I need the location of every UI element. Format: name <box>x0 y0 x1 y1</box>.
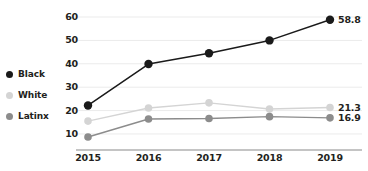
data-point-white-2019[interactable] <box>326 104 334 112</box>
end-value-label-white: 21.3 <box>338 103 361 113</box>
data-point-latinx-2017[interactable] <box>205 115 213 123</box>
x-tick-label: 2016 <box>136 152 162 163</box>
x-tick-label: 2015 <box>75 152 101 163</box>
series-line-black <box>88 20 330 106</box>
end-value-label-latinx: 16.9 <box>338 113 361 123</box>
data-point-black-2018[interactable] <box>265 36 273 44</box>
data-point-white-2015[interactable] <box>84 117 92 125</box>
data-point-black-2016[interactable] <box>144 60 152 68</box>
data-point-latinx-2019[interactable] <box>326 114 334 122</box>
x-tick-label: 2019 <box>317 152 343 163</box>
data-point-black-2017[interactable] <box>205 49 213 57</box>
data-point-latinx-2018[interactable] <box>266 113 274 121</box>
x-axis: 20152016201720182019 <box>84 152 362 168</box>
data-point-black-2015[interactable] <box>84 101 92 109</box>
x-tick-label: 2017 <box>196 152 222 163</box>
end-value-label-black: 58.8 <box>338 15 361 25</box>
data-point-white-2016[interactable] <box>145 104 153 112</box>
line-chart: Black White Latinx 605040302010 20152016… <box>0 0 368 171</box>
data-point-latinx-2016[interactable] <box>145 115 153 123</box>
x-tick-label: 2018 <box>257 152 283 163</box>
data-point-white-2017[interactable] <box>205 99 213 107</box>
data-point-white-2018[interactable] <box>266 105 274 113</box>
plot-area <box>0 0 368 171</box>
data-point-latinx-2015[interactable] <box>84 133 92 141</box>
data-point-black-2019[interactable] <box>326 16 334 24</box>
